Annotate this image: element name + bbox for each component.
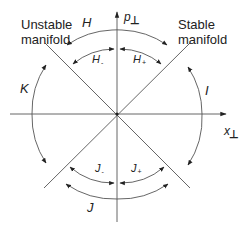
- region-K-label: K: [20, 82, 29, 95]
- region-I-label: I: [205, 84, 209, 97]
- arc-I: [188, 67, 202, 165]
- region-J-label: J: [87, 201, 94, 214]
- H-plus-subscript: +: [142, 59, 146, 66]
- perp-subscript-x: ⊥: [229, 128, 239, 140]
- H-minus-letter: H: [92, 53, 100, 65]
- perp-subscript-p: ⊥: [130, 14, 140, 26]
- J-minus-letter: J: [95, 162, 101, 174]
- arc-J-minus: [70, 167, 114, 183]
- phase-space-diagram: Unstable manifold Stable manifold p⊥ x⊥ …: [0, 0, 251, 228]
- J-plus-letter: J: [131, 162, 137, 174]
- region-H-minus-label: H-: [92, 54, 103, 66]
- J-minus-subscript: -: [102, 168, 104, 175]
- unstable-manifold-label: Unstable manifold: [21, 17, 81, 47]
- p-perp-axis-label: p⊥: [124, 11, 140, 26]
- origin-point: [115, 112, 118, 115]
- H-plus-letter: H: [133, 53, 141, 65]
- region-J-plus-label: J+: [131, 163, 142, 175]
- region-H-plus-label: H+: [133, 54, 146, 66]
- stable-manifold-label: Stable manifold: [178, 17, 238, 47]
- region-J-minus-label: J-: [95, 163, 104, 175]
- J-plus-subscript: +: [138, 168, 142, 175]
- region-H-label: H: [82, 16, 91, 29]
- H-minus-subscript: -: [101, 59, 103, 66]
- x-perp-axis-label: x⊥: [224, 125, 239, 140]
- arc-J-plus: [120, 167, 164, 183]
